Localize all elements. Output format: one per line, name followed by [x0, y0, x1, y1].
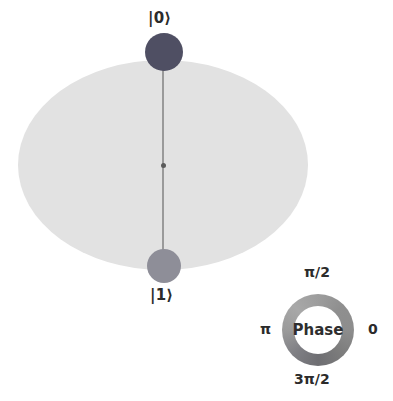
phase-tick-pi-over-2: π/2	[304, 264, 330, 280]
basis-state-node-one[interactable]	[147, 249, 181, 283]
phase-tick-three-pi-over-2: 3π/2	[294, 371, 330, 387]
phase-legend: π/2 0 3π/2 π Phase	[246, 258, 391, 401]
sphere-origin-marker	[161, 163, 166, 168]
phase-tick-pi: π	[260, 321, 271, 337]
basis-state-label-zero: |0⟩	[148, 9, 171, 27]
phase-legend-title: Phase	[282, 294, 354, 366]
basis-state-node-zero[interactable]	[145, 33, 183, 71]
phase-tick-zero: 0	[368, 321, 378, 337]
phase-color-wheel: Phase	[282, 294, 354, 366]
basis-state-label-one: |1⟩	[150, 286, 173, 304]
qsphere-figure: |0⟩ |1⟩ π/2 0 3π/2 π Phase	[0, 0, 393, 401]
q-sphere	[18, 60, 308, 270]
